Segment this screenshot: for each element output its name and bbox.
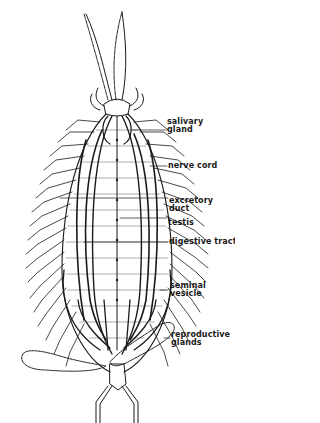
- nerve-cord: [116, 116, 118, 350]
- label-testis: testis: [168, 219, 194, 227]
- label-digestive-tract: digestive tract: [169, 238, 235, 246]
- label-salivary-gland: salivary gland: [167, 118, 203, 134]
- terminal-legs: [96, 364, 138, 423]
- head: [90, 88, 143, 116]
- label-seminal-vesicle: seminal vesicle: [170, 282, 206, 298]
- label-excretory-duct: excretory duct: [169, 197, 213, 213]
- label-reproductive-glands: reproductive glands: [171, 331, 230, 347]
- label-nerve-cord: nerve cord: [168, 162, 217, 170]
- antennae: [84, 12, 126, 100]
